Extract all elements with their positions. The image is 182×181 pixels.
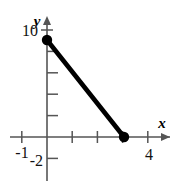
x-intercept-point-marker — [119, 132, 129, 142]
x-tick-label-minus1: -1 — [15, 144, 28, 161]
y-tick-label-10: 10 — [22, 22, 38, 39]
coordinate-plane-plot: x y 10 -2 -1 4 — [0, 0, 182, 181]
x-axis-label: x — [157, 115, 166, 131]
y-tick-label-minus2: -2 — [30, 152, 43, 169]
y-intercept-point-marker — [42, 35, 52, 45]
x-tick-label-4: 4 — [145, 146, 153, 163]
figure-container: y = -10/3 x + 10 — [0, 0, 182, 181]
